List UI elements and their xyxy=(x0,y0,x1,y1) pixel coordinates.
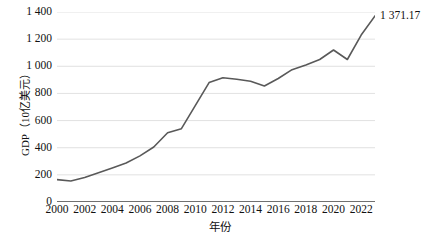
plot-area xyxy=(57,12,375,202)
y-axis-tick-label: 800 xyxy=(6,87,52,99)
y-axis-tick-label: 1 000 xyxy=(6,60,52,72)
y-axis-tick-label: 400 xyxy=(6,142,52,154)
y-axis-tick-label: 200 xyxy=(6,169,52,181)
gdp-line-chart: GDP（10亿美元） 02004006008001 0001 2001 400 … xyxy=(0,0,440,240)
gdp-series-line xyxy=(57,12,375,202)
y-axis-tick-label: 600 xyxy=(6,115,52,127)
x-axis-title: 年份 xyxy=(0,218,440,234)
x-axis-tick-label: 2022 xyxy=(341,203,381,216)
y-axis-tick-label: 1 200 xyxy=(6,33,52,45)
series-path xyxy=(57,16,375,181)
last-point-value-label: 1 371.17 xyxy=(380,9,420,21)
y-axis-tick-label: 1 400 xyxy=(6,6,52,18)
x-axis-tick-labels: 2000200220042006200820102012201420162018… xyxy=(0,203,440,219)
